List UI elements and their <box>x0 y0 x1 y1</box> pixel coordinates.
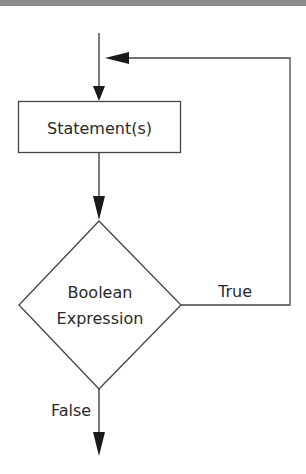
condition-label-line2: Expression <box>57 309 144 328</box>
statement-label: Statement(s) <box>47 119 152 138</box>
entry-arrow <box>93 33 105 101</box>
flowchart-canvas: Statement(s) Boolean Expression True Fal… <box>0 0 306 474</box>
condition-label-line1: Boolean <box>68 283 133 302</box>
arrowhead-down-icon <box>93 196 105 220</box>
condition-node: Boolean Expression <box>19 221 181 389</box>
false-exit-arrow: False <box>51 389 105 456</box>
statement-to-condition-arrow <box>93 153 105 220</box>
arrowhead-down-icon <box>93 86 105 101</box>
arrowhead-down-icon <box>93 432 105 456</box>
statement-node: Statement(s) <box>19 102 181 153</box>
false-label: False <box>51 401 91 420</box>
true-label: True <box>217 282 252 301</box>
arrowhead-left-icon <box>105 52 129 64</box>
